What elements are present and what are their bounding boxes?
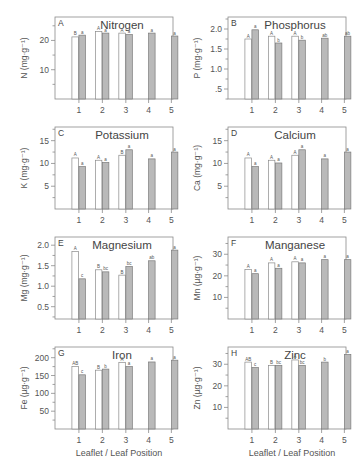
significance-letter: ab	[322, 33, 328, 38]
y-tick-label: 30	[213, 249, 223, 259]
significance-letter: bc	[300, 360, 306, 365]
significance-letter: A	[97, 26, 100, 31]
x-tick-label: 3	[123, 435, 128, 445]
significance-letter: c	[81, 273, 84, 278]
significance-letter: B	[121, 270, 124, 275]
x-tick-label: 2	[100, 435, 105, 445]
y-axis-label: Fe (µg·g⁻¹)	[19, 366, 29, 409]
bar-leaflet	[95, 32, 102, 99]
bar-leaf	[102, 369, 109, 429]
x-tick-label: 4	[319, 325, 324, 335]
y-axis-label: Zn (µg·g⁻¹)	[192, 366, 202, 409]
x-tick-label: 5	[342, 325, 347, 335]
y-axis-label: Mn (µg·g⁻¹)	[192, 255, 202, 300]
y-tick-label: .5	[215, 84, 222, 94]
bar-leaflet	[95, 160, 102, 209]
significance-letter: ab	[345, 31, 351, 36]
y-tick-label: 10	[213, 158, 223, 168]
nutrient-bar-chart-figure: 1020N (mg·g⁻¹)NitrogenA1Ba2Aa3Aa4a5a.51.…	[0, 0, 360, 476]
significance-letter: a	[151, 356, 154, 361]
bar-leaf	[275, 43, 282, 99]
significance-letter: B	[74, 31, 77, 36]
y-tick-label: 2.0	[37, 240, 49, 250]
significance-letter: bc	[127, 261, 133, 266]
bar-leaf	[149, 33, 156, 99]
x-tick-label: 2	[273, 435, 278, 445]
y-tick-label: 20	[40, 35, 50, 45]
significance-letter: bc	[276, 360, 282, 365]
x-tick-label: 2	[273, 325, 278, 335]
x-tick-label: 2	[273, 105, 278, 115]
significance-letter: a	[151, 153, 154, 158]
x-tick-label: 2	[100, 105, 105, 115]
bar-leaf	[126, 367, 133, 429]
panel-d: 51015Ca (mg·g⁻¹)CalciumD1Aa2Aa3Aa4a5a	[192, 127, 351, 225]
bar-leaf	[79, 167, 86, 209]
bar-leaflet	[119, 362, 126, 429]
panel-f: 102030Mn (µg·g⁻¹)ManganeseF1Aa2Aa3Aa4a5a	[192, 237, 351, 335]
bar-leaf	[171, 36, 178, 99]
y-axis-label: Mg (mg·g⁻¹)	[19, 254, 29, 301]
significance-letter: B	[270, 360, 273, 365]
bar-leaflet	[268, 160, 275, 209]
x-tick-label: 1	[77, 105, 82, 115]
bar-leaf	[171, 360, 178, 429]
x-tick-label: 1	[250, 215, 255, 225]
panel-letter: D	[231, 128, 237, 138]
bar-leaf	[275, 268, 282, 319]
significance-letter: a	[151, 28, 154, 33]
bar-leaf	[102, 272, 109, 319]
significance-letter: b	[301, 35, 304, 40]
significance-letter: a	[173, 355, 176, 360]
bar-leaflet	[95, 370, 102, 429]
panel-title: Phosphorus	[264, 19, 326, 31]
x-tick-label: 3	[296, 215, 301, 225]
significance-letter: A	[74, 246, 77, 251]
bar-leaf	[102, 163, 109, 209]
y-tick-label: 1.0	[37, 281, 49, 291]
bar-leaf	[149, 261, 156, 319]
significance-letter: A	[247, 34, 250, 39]
bar-leaf	[275, 163, 282, 209]
significance-letter: AB	[245, 357, 251, 362]
bar-leaf	[149, 362, 156, 429]
significance-letter: c	[254, 362, 257, 367]
significance-letter: A	[247, 264, 250, 269]
panel-title: Magnesium	[92, 239, 151, 251]
x-tick-label: 5	[342, 435, 347, 445]
bar-leaf	[171, 250, 178, 319]
bar-leaf	[79, 375, 86, 429]
y-tick-label: 10	[213, 292, 223, 302]
bar-leaflet	[268, 36, 275, 99]
panel-title: Potassium	[95, 129, 149, 141]
bar-leaf	[79, 279, 86, 319]
y-tick-label: 1.5	[210, 44, 222, 54]
bar-leaflet	[72, 37, 79, 99]
bar-leaf	[344, 260, 351, 319]
y-axis-label: P (mg·g⁻¹)	[192, 37, 202, 78]
bar-leaflet	[292, 360, 299, 429]
y-tick-label: 1.0	[210, 64, 222, 74]
x-tick-label: 2	[100, 325, 105, 335]
significance-letter: a	[346, 254, 349, 259]
x-tick-label: 1	[250, 435, 255, 445]
y-axis-label: K (mg·g⁻¹)	[19, 147, 29, 188]
significance-letter: a	[324, 153, 327, 158]
bar-leaf	[299, 263, 306, 319]
significance-letter: ab	[149, 255, 155, 260]
panel-h: 102030Zn (µg·g⁻¹)ZincH1ABc2Bbc3Abc4b5aLe…	[192, 347, 351, 458]
bar-leaf	[344, 152, 351, 209]
bar-leaflet	[292, 155, 299, 209]
significance-letter: a	[128, 144, 131, 149]
significance-letter: B	[97, 365, 100, 370]
bar-leaflet	[245, 39, 252, 99]
x-tick-label: 4	[319, 215, 324, 225]
significance-letter: A	[97, 155, 100, 160]
bar-leaflet	[119, 33, 126, 99]
significance-letter: A	[294, 354, 297, 359]
significance-letter: AB	[72, 361, 78, 366]
significance-letter: c	[81, 369, 84, 374]
bar-leaf	[252, 368, 259, 430]
significance-letter: a	[173, 245, 176, 250]
panel-g: 50100150200Fe (µg·g⁻¹)IronG1ABc2Bb3Aa4a5…	[19, 347, 178, 458]
